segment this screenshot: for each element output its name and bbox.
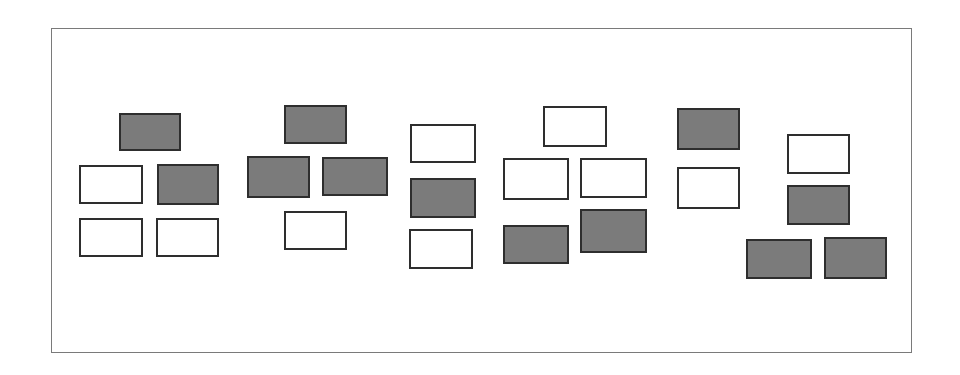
- filled-box: [580, 209, 647, 253]
- filled-box: [677, 108, 740, 150]
- filled-box: [322, 157, 388, 196]
- empty-box: [409, 229, 473, 269]
- filled-box: [247, 156, 310, 198]
- filled-box: [503, 225, 569, 264]
- filled-box: [284, 105, 347, 144]
- empty-box: [543, 106, 607, 147]
- filled-box: [787, 185, 850, 225]
- empty-box: [580, 158, 647, 198]
- filled-box: [824, 237, 887, 279]
- empty-box: [79, 218, 143, 257]
- empty-box: [284, 211, 347, 250]
- empty-box: [410, 124, 476, 163]
- filled-box: [119, 113, 181, 151]
- empty-box: [79, 165, 143, 204]
- empty-box: [503, 158, 569, 200]
- empty-box: [156, 218, 219, 257]
- filled-box: [157, 164, 219, 205]
- filled-box: [410, 178, 476, 218]
- empty-box: [787, 134, 850, 174]
- empty-box: [677, 167, 740, 209]
- filled-box: [746, 239, 812, 279]
